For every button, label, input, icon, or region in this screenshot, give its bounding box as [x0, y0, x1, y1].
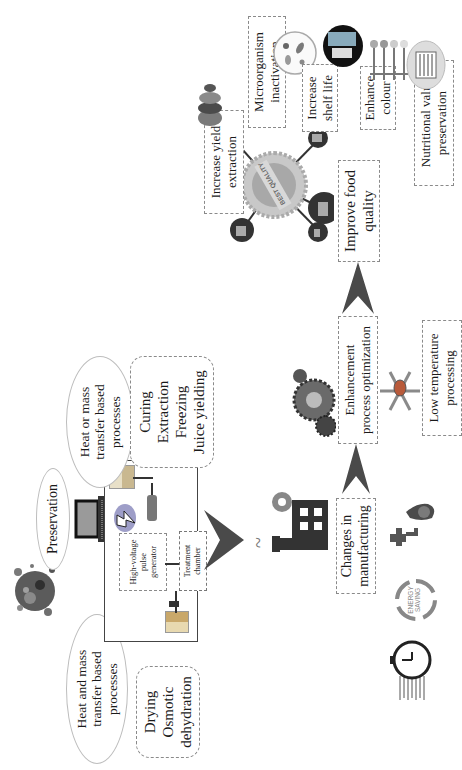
factory-icon [266, 490, 330, 560]
ellipse-text-line: processes [108, 384, 124, 459]
ellipse-text-line: Heat or mass [77, 384, 93, 459]
arrow-right-icon [336, 444, 376, 494]
valve-icon [169, 601, 179, 607]
example-item: Curing [136, 370, 154, 454]
example-item: dehydration [177, 676, 195, 748]
ellipse-text-line: transfer based [92, 384, 108, 459]
preservation-ellipse: Preservation [36, 468, 70, 570]
box-text-line: processing [442, 333, 458, 422]
box-text-line: manufacturing [356, 505, 373, 587]
box-text-line: shelf life [320, 75, 336, 121]
drying-examples-box: Drying Osmotic dehydration [136, 666, 200, 758]
energy-saving-icon: ENERGY SAVING [392, 576, 440, 624]
stopwatch-icon [390, 638, 438, 700]
example-item: Juice yielding [190, 370, 208, 454]
enhancement-process-optimization-box: Enhancement process optimization [338, 316, 378, 444]
box-text-line: Nutritional value [418, 79, 434, 167]
box-text-line: Changes in [339, 505, 356, 587]
chamber-label: Treatment [183, 545, 193, 578]
high-voltage-generator-box: High-voltage pulse generator [119, 533, 167, 591]
preservation-label: Preservation [45, 484, 61, 554]
increase-shelf-life-box: Increase shelf life [302, 64, 338, 132]
juice-carton-icon [322, 24, 364, 68]
pipe-line [151, 483, 153, 495]
snowflake-thermometer-icon [378, 366, 422, 416]
ellipse-text-line: transfer based [89, 650, 105, 729]
nutrition-label-icon [406, 40, 446, 90]
fruit-slices-icon [196, 82, 224, 128]
pipe-line [133, 477, 153, 479]
arrow-right-icon [338, 262, 378, 314]
energy-text: SAVING [414, 576, 421, 624]
box-text-line: preservation [434, 79, 450, 167]
example-item: Drying [141, 676, 159, 748]
example-item: Freezing [172, 370, 190, 454]
box-text-line: Improve food [341, 170, 359, 252]
box-text-line: Increase yield [208, 126, 224, 199]
water-tap-globe-icon [388, 500, 438, 548]
box-text-line: Increase [304, 75, 320, 121]
laptop-icon [74, 493, 108, 545]
box-text-line: Microorganism [251, 32, 267, 112]
tilde-icon: ~ [252, 528, 264, 548]
box-text-line: Enhancement [342, 326, 358, 434]
chamber-label: chamber [193, 545, 203, 578]
ellipse-text-line: processes [105, 650, 121, 729]
gears-icon [290, 368, 336, 440]
microbe-globe-icon [8, 562, 60, 620]
heat-or-mass-transfer-ellipse: Heat or mass transfer based processes [66, 356, 134, 488]
curing-examples-box: Curing Extraction Freezing Juice yieldin… [130, 356, 214, 468]
treatment-chamber-box: Treatment chamber [179, 531, 207, 591]
generator-label: generator [148, 540, 158, 585]
generator-label: High-voltage [128, 540, 138, 585]
beaker-icon [165, 611, 189, 633]
generator-label: pulse [138, 540, 148, 585]
energy-text: ENERGY [407, 576, 414, 624]
example-item: Osmotic [159, 676, 177, 748]
ellipse-text-line: Heat and mass [74, 650, 90, 729]
connector-line [165, 563, 179, 565]
chevron-down-arrow-icon [204, 510, 244, 570]
diagram-canvas: Heat and mass transfer based processes D… [0, 0, 462, 770]
changes-in-manufacturing-box: Changes in manufacturing [336, 498, 376, 594]
box-text-line: quality [359, 170, 377, 252]
box-text-line: Low temperature [426, 333, 442, 422]
lightning-bolt-icon [111, 503, 139, 533]
low-temperature-processing-box: Low temperature processing [422, 320, 462, 436]
box-text-line: Enhance [362, 76, 378, 121]
box-text-line: process optimization [358, 326, 374, 434]
improve-food-quality-box: Improve food quality [338, 160, 380, 262]
example-item: Extraction [154, 370, 172, 454]
pef-system-box: High-voltage pulse generator Treatment c… [104, 460, 198, 642]
box-text-line: extraction [224, 126, 240, 199]
pump-icon [147, 495, 157, 521]
box-text-line: colour [378, 76, 394, 121]
